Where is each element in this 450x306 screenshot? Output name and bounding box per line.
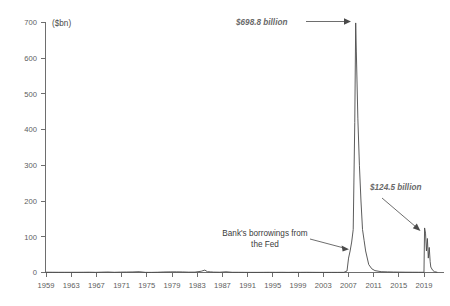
fed-borrowings-line-chart: 700 600 500 400 300 200 100 0 ($bn) (0, 0, 450, 306)
annotation-arrow-head (342, 246, 349, 252)
x-tick-label: 1995 (264, 281, 281, 290)
x-tick-label: 2015 (390, 281, 407, 290)
x-axis-labels: 1959 1963 1967 1971 1975 1979 1983 1987 … (38, 281, 433, 290)
x-tick-label: 1979 (164, 281, 181, 290)
annotation-label-peak-2020: $124.5 billion (369, 183, 421, 192)
x-tick-label: 1987 (214, 281, 231, 290)
series-label-line1: Bank's borrowings from (222, 229, 307, 238)
annotation-arrow-head (344, 18, 351, 25)
y-tick-label: 200 (24, 197, 37, 206)
y-tick-label: 0 (33, 268, 37, 277)
y-axis-unit-label: ($bn) (52, 19, 71, 28)
x-tick-label: 1963 (63, 281, 80, 290)
x-tick-label: 2003 (315, 281, 332, 290)
annotation-arrow-line (310, 239, 344, 248)
y-tick-label: 500 (24, 90, 37, 99)
annotation-label-peak-2008: $698.8 billion (235, 18, 287, 27)
x-tick-label: 2019 (416, 281, 433, 290)
annotation-series-label: Bank's borrowings from the Fed (222, 229, 349, 251)
y-tick-label: 700 (24, 18, 37, 27)
y-tick-label: 600 (24, 54, 37, 63)
x-tick-label: 1967 (88, 281, 105, 290)
x-tick-label: 1991 (239, 281, 256, 290)
annotation-arrow-head (413, 224, 421, 232)
y-tick-label: 100 (24, 233, 37, 242)
x-tick-label: 2011 (365, 281, 381, 290)
y-tick-label: 400 (24, 125, 37, 134)
x-tick-label: 1999 (290, 281, 307, 290)
series-label-line2: the Fed (251, 240, 279, 249)
annotation-arrow-line (382, 198, 416, 227)
x-tick-label: 1959 (38, 281, 55, 290)
y-axis-labels: 700 600 500 400 300 200 100 0 (24, 18, 37, 277)
x-axis-ticks (46, 273, 424, 278)
annotation-peak-2008: $698.8 billion (235, 18, 351, 27)
x-tick-label: 1975 (138, 281, 155, 290)
x-tick-label: 1971 (113, 281, 130, 290)
x-tick-label: 1983 (189, 281, 206, 290)
y-tick-label: 300 (24, 161, 37, 170)
y-axis-ticks (41, 23, 46, 273)
x-tick-label: 2007 (340, 281, 357, 290)
annotation-peak-2020: $124.5 billion (369, 183, 421, 231)
chart-container: 700 600 500 400 300 200 100 0 ($bn) (0, 0, 450, 306)
